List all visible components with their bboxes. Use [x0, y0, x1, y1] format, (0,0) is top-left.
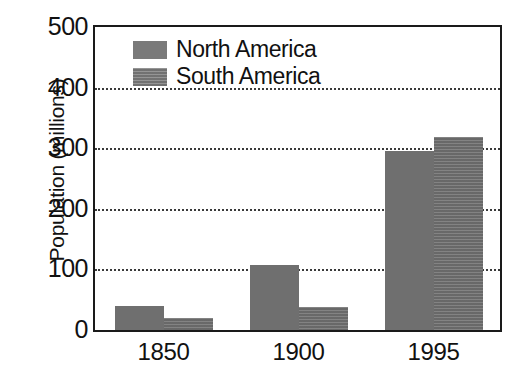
north-america-swatch	[133, 41, 167, 59]
bar-north-america-1995	[385, 151, 434, 330]
y-axis-tick-labels: 5004003002001000	[26, 0, 88, 369]
x-tick-label-1850: 1850	[104, 340, 224, 364]
bar-chart: Population (millions) 5004003002001000 1…	[0, 0, 509, 369]
legend-entry-north-america: North America	[133, 36, 383, 63]
y-tick-label-0: 0	[26, 317, 88, 342]
plot-area: North AmericaSouth America	[93, 25, 502, 332]
bar-north-america-1900	[250, 265, 299, 330]
x-tick-label-1995: 1995	[374, 340, 494, 364]
legend-label-0: North America	[176, 38, 317, 61]
legend-entry-south-america: South America	[133, 63, 383, 90]
y-tick-label-200: 200	[26, 196, 88, 221]
legend-label-1: South America	[176, 65, 320, 88]
y-tick-label-100: 100	[26, 256, 88, 281]
y-tick-label-500: 500	[26, 14, 88, 39]
bar-north-america-1850	[115, 306, 164, 330]
y-tick-label-300: 300	[26, 135, 88, 160]
south-america-swatch	[133, 68, 167, 86]
bar-south-america-1850	[164, 318, 213, 330]
bar-south-america-1900	[299, 307, 348, 330]
x-tick-label-1900: 1900	[239, 340, 359, 364]
legend: North AmericaSouth America	[133, 36, 383, 90]
bar-south-america-1995	[434, 137, 483, 330]
y-tick-label-400: 400	[26, 75, 88, 100]
